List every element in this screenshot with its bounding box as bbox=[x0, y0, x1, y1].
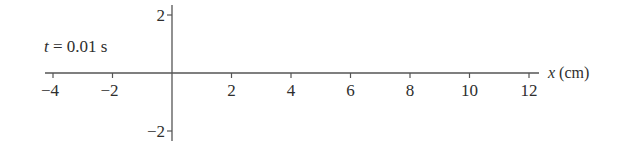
y-tick-label: 2 bbox=[157, 6, 166, 25]
wave-snapshot-chart: −4−224681012 2−2 x (cm) t = 0.01 s bbox=[0, 0, 630, 146]
x-tick-label: 2 bbox=[227, 81, 236, 100]
x-tick-label: 12 bbox=[521, 81, 538, 100]
time-annotation: t = 0.01 s bbox=[44, 37, 107, 56]
x-axis-ticks: −4−224681012 bbox=[41, 73, 538, 100]
x-tick-label: −4 bbox=[41, 81, 60, 100]
x-tick-label: −2 bbox=[100, 81, 118, 100]
x-tick-label: 8 bbox=[406, 81, 415, 100]
y-tick-label: −2 bbox=[147, 122, 165, 141]
x-tick-label: 4 bbox=[287, 81, 296, 100]
x-tick-label: 6 bbox=[346, 81, 355, 100]
chart-canvas: −4−224681012 2−2 x (cm) t = 0.01 s bbox=[0, 0, 630, 146]
x-tick-label: 10 bbox=[461, 81, 478, 100]
x-axis-label: x (cm) bbox=[547, 64, 589, 82]
